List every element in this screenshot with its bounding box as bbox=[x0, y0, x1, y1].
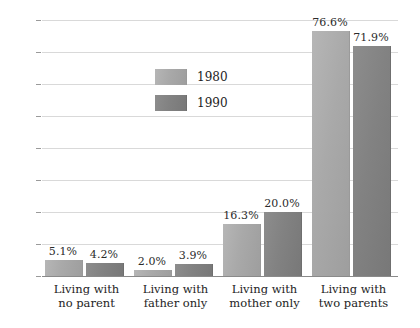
category-label-3: Living withmother only bbox=[229, 282, 299, 310]
data-label-1980-3: 16.3% bbox=[223, 209, 258, 222]
y-tick-mark bbox=[36, 84, 41, 85]
category-label-4: Living withtwo parents bbox=[319, 282, 389, 310]
legend-swatch-1990 bbox=[155, 95, 187, 111]
data-label-1990-3: 20.0% bbox=[264, 197, 299, 210]
legend-item-1980[interactable]: 1980 bbox=[155, 69, 228, 85]
y-tick-mark bbox=[36, 20, 41, 21]
plot-area: 5.1%4.2%2.0%3.9%16.3%20.0%76.6%71.9% bbox=[42, 20, 398, 276]
y-tick-mark bbox=[36, 148, 41, 149]
bar-1990-2[interactable] bbox=[175, 264, 213, 276]
y-tick-mark bbox=[36, 212, 41, 213]
bar-1980-1[interactable] bbox=[45, 260, 83, 276]
y-tick-mark bbox=[36, 180, 41, 181]
bar-1980-3[interactable] bbox=[223, 224, 261, 276]
legend: 1980 1990 bbox=[155, 69, 228, 121]
bar-1990-4[interactable] bbox=[353, 46, 391, 276]
y-tick-mark bbox=[36, 116, 41, 117]
bar-1980-2[interactable] bbox=[134, 270, 172, 276]
bar-1990-3[interactable] bbox=[264, 212, 302, 276]
legend-label-1980: 1980 bbox=[197, 70, 228, 84]
bar-1980-4[interactable] bbox=[312, 31, 350, 276]
grouped-bar-chart: 01020304050607080 5.1%4.2%2.0%3.9%16.3%2… bbox=[0, 0, 420, 328]
data-label-1980-4: 76.6% bbox=[312, 16, 347, 29]
y-tick-mark bbox=[36, 276, 41, 277]
category-label-2: Living withfather only bbox=[143, 282, 208, 310]
data-label-1980-1: 5.1% bbox=[49, 245, 77, 258]
legend-swatch-1980 bbox=[155, 69, 187, 85]
category-label-1: Living withno parent bbox=[54, 282, 119, 310]
y-tick-mark bbox=[36, 52, 41, 53]
y-tick-mark bbox=[36, 244, 41, 245]
legend-item-1990[interactable]: 1990 bbox=[155, 95, 228, 111]
legend-label-1990: 1990 bbox=[197, 96, 228, 110]
data-label-1990-2: 3.9% bbox=[179, 249, 207, 262]
axis-baseline bbox=[42, 276, 398, 277]
data-label-1990-4: 71.9% bbox=[353, 31, 388, 44]
data-label-1980-2: 2.0% bbox=[138, 255, 166, 268]
data-label-1990-1: 4.2% bbox=[90, 248, 118, 261]
bar-1990-1[interactable] bbox=[86, 263, 124, 276]
